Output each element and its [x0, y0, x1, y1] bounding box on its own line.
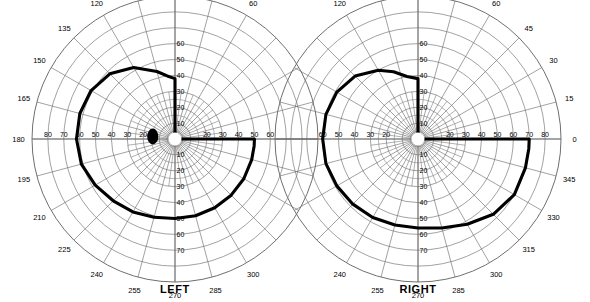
grid-meridian-fine-187.5 — [371, 140, 414, 146]
radial-label-left-30: 30 — [123, 131, 131, 138]
meridian-label-0: 0 — [572, 135, 576, 144]
perimetry-chart-page: 1351501651801952102252402552702853001201… — [0, 0, 590, 302]
radial-label-down-40: 40 — [177, 199, 185, 206]
grid-meridian-330 — [422, 141, 542, 210]
grid-meridian-fine-262.5 — [412, 144, 418, 187]
radial-label-up-10: 10 — [177, 120, 185, 127]
radial-label-right-20: 20 — [203, 131, 211, 138]
grid-meridian-300 — [177, 143, 246, 263]
grid-meridian-225 — [74, 142, 172, 240]
radial-label-up-40: 40 — [177, 72, 185, 79]
grid-meridian-315 — [421, 142, 519, 240]
radial-label-up-60: 60 — [177, 40, 185, 47]
radial-label-up-40: 40 — [420, 72, 428, 79]
meridian-label-150: 150 — [33, 56, 46, 65]
meridian-label-330: 330 — [547, 213, 560, 222]
meridian-label-120: 120 — [333, 0, 346, 8]
radial-label-left-70: 70 — [60, 131, 68, 138]
radial-label-left-50: 50 — [92, 131, 100, 138]
chart-right: 1201059075604530150345330315300285270255… — [275, 0, 577, 300]
radial-label-down-20: 20 — [420, 167, 428, 174]
grid-meridian-135 — [317, 38, 415, 136]
right-eye-label: RIGHT — [368, 283, 468, 295]
grid-meridian-30 — [422, 68, 542, 137]
meridian-label-240: 240 — [333, 270, 346, 279]
radial-label-up-20: 20 — [177, 104, 185, 111]
meridian-label-60: 60 — [492, 0, 500, 8]
radial-label-up-10: 10 — [420, 120, 428, 127]
meridian-label-180: 180 — [12, 135, 25, 144]
radial-label-left-20: 20 — [139, 131, 147, 138]
grid-meridian-150 — [51, 68, 171, 137]
grid-meridian-240 — [347, 143, 416, 263]
meridian-label-120: 120 — [90, 0, 103, 8]
radial-label-up-60: 60 — [420, 40, 428, 47]
radial-label-down-10: 10 — [177, 151, 185, 158]
radial-label-down-30: 30 — [177, 183, 185, 190]
radial-label-right-40: 40 — [235, 131, 243, 138]
radial-label-right-60: 60 — [509, 131, 517, 138]
radial-label-right-30: 30 — [462, 131, 470, 138]
radial-label-right-70: 70 — [525, 131, 533, 138]
visual-field-chart: 1351501651801952102252402552702853001201… — [0, 0, 590, 302]
left-eye-label: LEFT — [125, 283, 225, 295]
meridian-label-315: 315 — [522, 245, 535, 254]
meridian-label-30: 30 — [549, 56, 557, 65]
radial-label-right-50: 50 — [251, 131, 259, 138]
radial-label-left-30: 30 — [366, 131, 374, 138]
radial-label-right-50: 50 — [494, 131, 502, 138]
radial-label-left-40: 40 — [108, 131, 116, 138]
radial-label-down-30: 30 — [420, 183, 428, 190]
fixation-point-left — [169, 133, 182, 146]
meridian-label-300: 300 — [490, 270, 503, 279]
radial-label-up-30: 30 — [420, 88, 428, 95]
meridian-label-165: 165 — [18, 94, 31, 103]
grid-meridian-60 — [177, 15, 246, 135]
meridian-label-60: 60 — [249, 0, 257, 8]
fixation-point-right — [412, 133, 425, 146]
radial-label-up-50: 50 — [420, 56, 428, 63]
meridian-label-345: 345 — [563, 175, 576, 184]
meridian-label-300: 300 — [247, 270, 260, 279]
radial-label-down-70: 70 — [420, 247, 428, 254]
radial-label-left-50: 50 — [335, 131, 343, 138]
blind-spot-marker — [147, 129, 158, 145]
chart-left: 1351501651801952102252402552702853001201… — [12, 0, 318, 300]
radial-label-up-50: 50 — [177, 56, 185, 63]
radial-label-up-20: 20 — [420, 104, 428, 111]
grid-meridian-fine-172.5 — [371, 133, 414, 139]
radial-label-down-60: 60 — [420, 231, 428, 238]
meridian-label-195: 195 — [18, 175, 31, 184]
meridian-label-210: 210 — [33, 213, 46, 222]
meridian-label-45: 45 — [524, 24, 532, 33]
grid-meridian-60 — [420, 15, 489, 135]
radial-label-left-40: 40 — [351, 131, 359, 138]
radial-label-left-20: 20 — [382, 131, 390, 138]
grid-meridian-315 — [178, 142, 276, 240]
radial-label-up-30: 30 — [177, 88, 185, 95]
grid-meridian-fine-277.5 — [419, 144, 425, 187]
radial-label-down-70: 70 — [177, 247, 185, 254]
radial-label-right-80: 80 — [541, 131, 549, 138]
radial-label-right-40: 40 — [478, 131, 486, 138]
grid-meridian-300 — [420, 143, 489, 263]
grid-meridian-240 — [104, 143, 173, 263]
grid-meridian-135 — [74, 38, 172, 136]
radial-label-down-20: 20 — [177, 167, 185, 174]
meridian-label-15: 15 — [565, 94, 573, 103]
radial-label-left-80: 80 — [44, 131, 52, 138]
grid-meridian-fine-277.5 — [176, 144, 182, 187]
meridian-label-240: 240 — [90, 270, 103, 279]
grid-meridian-fine-262.5 — [169, 144, 175, 187]
radial-label-down-60: 60 — [177, 231, 185, 238]
meridian-label-225: 225 — [58, 245, 71, 254]
radial-label-right-20: 20 — [446, 131, 454, 138]
radial-label-right-60: 60 — [266, 131, 274, 138]
radial-label-down-50: 50 — [420, 215, 428, 222]
grid-meridian-45 — [421, 38, 519, 136]
meridian-label-135: 135 — [58, 24, 71, 33]
grid-meridian-45 — [178, 38, 276, 136]
radial-label-down-10: 10 — [420, 151, 428, 158]
radial-label-right-30: 30 — [219, 131, 227, 138]
radial-label-down-40: 40 — [420, 199, 428, 206]
